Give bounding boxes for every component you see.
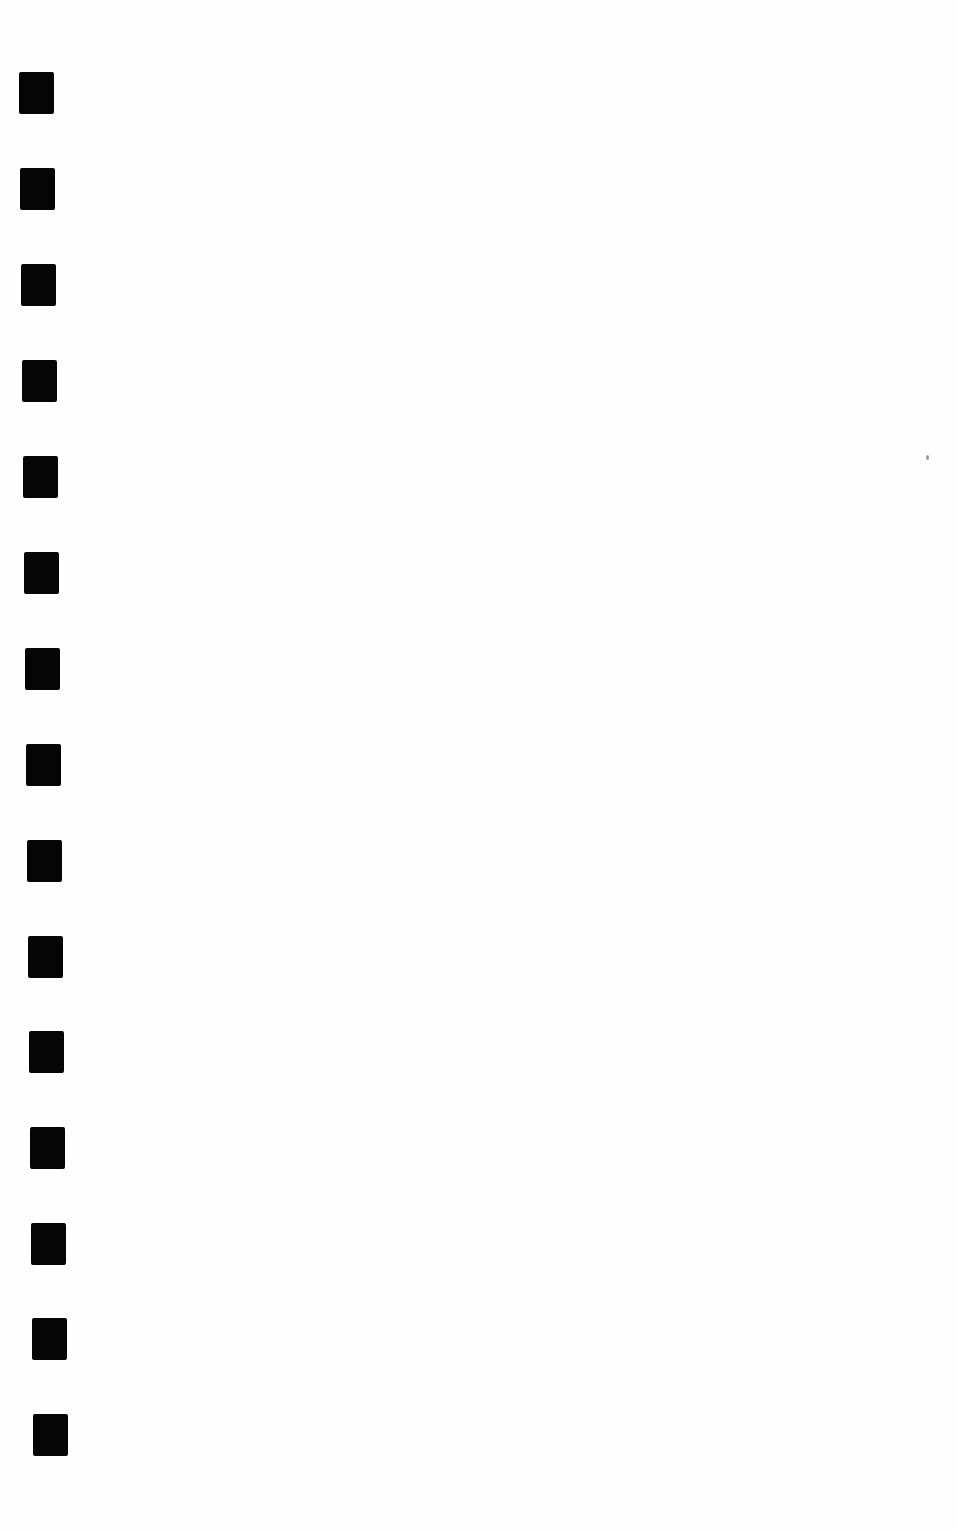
margin-punch-mark: [21, 264, 56, 306]
margin-punch-mark: [20, 168, 55, 210]
margin-punch-mark: [22, 360, 57, 402]
margin-punch-mark: [27, 840, 62, 882]
margin-punch-mark: [26, 744, 61, 786]
margin-punch-mark: [24, 552, 59, 594]
margin-punch-mark: [30, 1127, 65, 1169]
margin-punch-mark: [23, 456, 58, 498]
blank-page: [0, 0, 958, 1531]
scan-speck: [926, 455, 929, 460]
margin-punch-mark: [33, 1414, 68, 1456]
margin-punch-mark: [31, 1223, 66, 1265]
margin-punch-mark: [19, 72, 54, 114]
margin-punch-mark: [32, 1318, 67, 1360]
margin-punch-mark: [28, 936, 63, 978]
margin-punch-mark: [25, 648, 60, 690]
margin-punch-mark: [29, 1031, 64, 1073]
